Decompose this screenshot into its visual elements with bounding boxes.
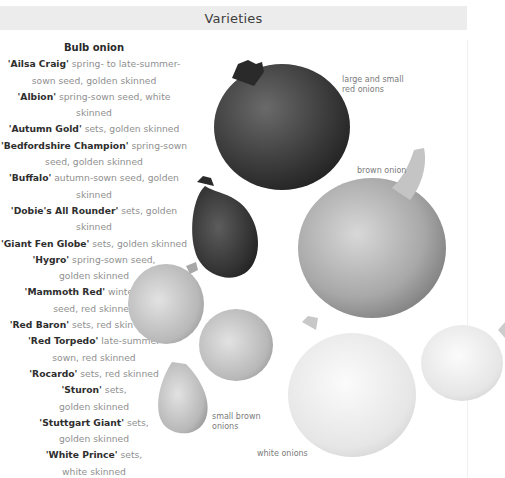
large-red-onion-image [214, 60, 350, 190]
large-white-onion-image [288, 316, 416, 457]
small-red-onion-image [192, 176, 258, 278]
caption-red-onions: large and small red onions [342, 75, 404, 94]
caption-brown-onion: brown onion [357, 166, 406, 176]
onion-illustrations [0, 0, 505, 478]
caption-white-onions: white onions [257, 449, 308, 459]
caption-small-brown-onions: small brown onions [212, 412, 261, 431]
small-brown-onion-1-image [128, 262, 204, 344]
small-white-onion-image [421, 322, 505, 401]
small-brown-onion-3-image [158, 362, 208, 433]
small-brown-onion-2-image [199, 309, 273, 381]
